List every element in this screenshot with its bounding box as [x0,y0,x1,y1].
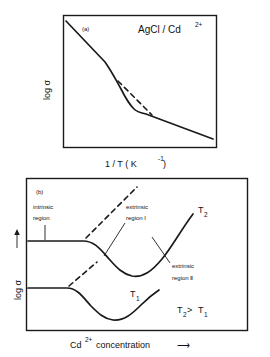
panel-b-curve-label-t2-sub: 2 [204,211,208,218]
panel-a-title: AgCl / Cd 2+ [138,21,203,35]
panel-b-x-axis-arrow: ⟶ [177,340,190,350]
panel-b-relation-operator: > [187,305,192,315]
panel-b-label-ext1-line1: extrinsic [126,204,148,210]
panel-b-relation-t1-sub: 1 [204,311,208,318]
panel-b-curve-label-t1-sub: 1 [136,295,140,302]
panel-a-x-axis-label-tail: ) [163,159,166,169]
panel-b-tag: (b) [36,189,43,195]
panel-b-relation-annotation: T 2 > T 1 [177,305,208,318]
panel-b-label-ext1-line2: region I [126,215,146,221]
panel-b-label-intrinsic-region: intrinsic region [33,204,53,240]
panel-b-x-axis-label: Cd 2+ concentration ⟶ [70,336,190,350]
panel-a-x-axis-label: 1 / T ( K -1 ) [105,155,166,169]
panel-b-curve-t1 [28,288,159,320]
panel-b-leader-ext1 [104,223,125,256]
panel-b-label-ext2-line1: extrinsic [172,263,194,269]
panel-a-tag: (a) [82,26,89,32]
panel-a-conductivity-curve [66,21,213,139]
panel-b-y-axis-arrow-head [14,229,20,235]
panel-b-curve-label-t1: T 1 [130,289,140,302]
panel-a-x-axis-label-main: 1 / T ( K [105,159,137,169]
panel-b-x-axis-label-main: Cd [70,340,82,350]
panel-b-y-axis-label: log σ [13,279,23,300]
panel-a-frame [64,16,217,148]
panel-b-label-intrinsic-line1: intrinsic [33,204,53,210]
panel-b-extrapolation-t2-dashed [86,187,137,238]
panel-a-y-axis-label: log σ [42,79,52,100]
panel-a-title-superscript: 2+ [195,21,203,28]
panel-a: (a) AgCl / Cd 2+ log σ 1 / T ( K -1 ) [42,16,217,170]
figure-svg: (a) AgCl / Cd 2+ log σ 1 / T ( K -1 ) (b… [0,0,270,357]
panel-b-label-extrinsic-region-1: extrinsic region I [104,204,148,256]
panel-b-label-ext2-line2: region Ⅱ [172,275,193,281]
panel-b-extrapolation-t1-dashed [69,262,97,286]
panel-b-x-axis-label-tail: concentration [96,340,150,350]
panel-b-label-intrinsic-line2: region [33,215,50,221]
panel-b-curve-label-t2: T 2 [198,205,208,218]
panel-a-title-main: AgCl / Cd [138,24,181,35]
figure-container: (a) AgCl / Cd 2+ log σ 1 / T ( K -1 ) (b… [0,0,270,357]
panel-b: (b) intrinsic region extrinsic region I … [13,179,248,351]
panel-b-x-axis-label-superscript: 2+ [85,336,93,343]
panel-b-y-axis-group: log σ [13,229,23,300]
panel-b-frame [27,179,248,331]
